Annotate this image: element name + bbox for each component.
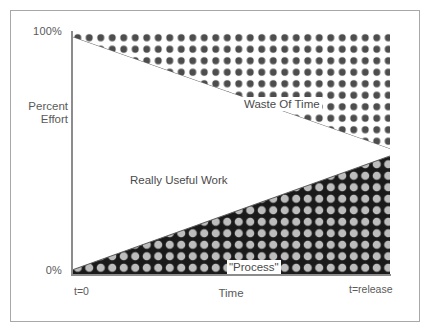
y-tick-label-0: 0% bbox=[46, 264, 62, 276]
annotation-process: "Process" bbox=[227, 260, 281, 274]
x-tick-label-end: t=release bbox=[349, 283, 393, 295]
y-axis-title-line2: Effort bbox=[8, 113, 68, 126]
annotation-really-useful-work: Really Useful Work bbox=[128, 173, 230, 187]
plot-svg bbox=[72, 32, 390, 275]
y-tick-label-100: 100% bbox=[33, 25, 62, 37]
y-axis-title: Percent Effort bbox=[8, 100, 68, 126]
figure-root: Waste Of Time Really Useful Work "Proces… bbox=[0, 0, 432, 334]
plot-area: Waste Of Time Really Useful Work "Proces… bbox=[72, 32, 390, 275]
y-axis-line bbox=[71, 31, 73, 276]
x-axis-title: Time bbox=[72, 287, 390, 299]
annotation-waste-of-time: Waste Of Time bbox=[242, 97, 322, 111]
y-axis-title-line1: Percent bbox=[8, 100, 68, 113]
x-tick-label-start: t=0 bbox=[74, 285, 89, 297]
x-axis-line bbox=[71, 274, 391, 276]
